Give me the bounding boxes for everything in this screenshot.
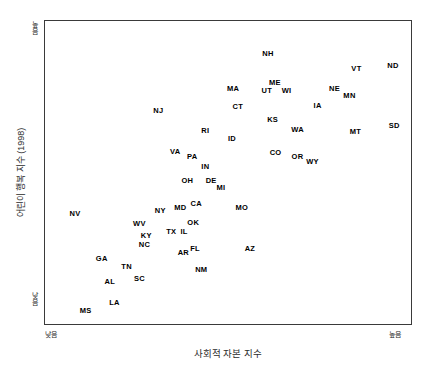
data-point-label: NY xyxy=(155,207,166,215)
data-point-label: CO xyxy=(270,149,282,157)
data-point-label: TN xyxy=(121,264,132,272)
data-point-label: CT xyxy=(233,104,244,112)
data-point-layer: NHVTNDMEUTWINEMNMAIACTNJKSWAMTSDRIIDCOOR… xyxy=(45,21,411,324)
data-point-label: ID xyxy=(228,135,236,143)
data-point-label: IN xyxy=(201,163,209,171)
data-point-label: AL xyxy=(104,278,115,286)
data-point-label: DE xyxy=(206,177,217,185)
data-point-label: MS xyxy=(80,307,92,315)
data-point-label: ND xyxy=(387,62,398,70)
scatter-plot-figure: 어린이 행복 지수 (1998) 높음 낮음 NHVTNDMEUTWINEMNM… xyxy=(0,0,424,367)
data-point-label: CA xyxy=(190,200,201,208)
data-point-label: MA xyxy=(227,86,239,94)
y-axis-title: 어린이 행복 지수 (1998) xyxy=(14,20,28,325)
data-point-label: TX xyxy=(166,228,176,236)
data-point-label: NV xyxy=(69,210,80,218)
data-point-label: IL xyxy=(180,228,187,236)
data-point-label: OK xyxy=(187,219,199,227)
data-point-label: VT xyxy=(351,65,361,73)
x-axis-tick-low: 낮음 xyxy=(45,329,57,339)
data-point-label: GA xyxy=(96,255,108,263)
data-point-label: AZ xyxy=(245,246,256,254)
data-point-label: SC xyxy=(134,275,145,283)
plot-area: NHVTNDMEUTWINEMNMAIACTNJKSWAMTSDRIIDCOOR… xyxy=(44,20,412,325)
data-point-label: PA xyxy=(187,153,197,161)
data-point-label: WI xyxy=(282,87,292,95)
data-point-label: FL xyxy=(190,245,200,253)
data-point-label: IA xyxy=(314,102,322,110)
data-point-label: MT xyxy=(350,128,361,136)
y-axis-tick-high: 높음 xyxy=(22,21,38,34)
data-point-label: OR xyxy=(292,153,304,161)
data-point-label: MO xyxy=(236,204,249,212)
data-point-label: SD xyxy=(389,123,400,131)
data-point-label: RI xyxy=(201,128,209,136)
x-axis-title: 사회적 자본 지수 xyxy=(44,346,412,360)
data-point-label: UT xyxy=(261,87,272,95)
data-point-label: MD xyxy=(174,204,186,212)
data-point-label: WY xyxy=(306,158,319,166)
data-point-label: NC xyxy=(139,241,150,249)
data-point-label: OH xyxy=(181,177,193,185)
data-point-label: MN xyxy=(343,93,355,101)
data-point-label: NJ xyxy=(153,108,163,116)
data-point-label: AR xyxy=(178,250,189,258)
data-point-label: WA xyxy=(291,127,304,135)
x-axis-tick-high: 높음 xyxy=(389,329,401,339)
data-point-label: VA xyxy=(170,148,180,156)
data-point-label: KS xyxy=(267,117,278,125)
data-point-label: NE xyxy=(329,86,340,94)
data-point-label: NH xyxy=(262,50,273,58)
data-point-label: LA xyxy=(109,299,120,307)
data-point-label: MI xyxy=(217,184,226,192)
data-point-label: KY xyxy=(141,232,152,240)
data-point-label: NM xyxy=(195,267,207,275)
y-axis-tick-low: 낮음 xyxy=(22,292,38,305)
data-point-label: WV xyxy=(133,220,146,228)
